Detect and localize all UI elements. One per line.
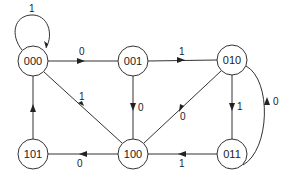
edge-label-001-100: 0 — [138, 102, 144, 113]
arrow-head-icon — [79, 151, 87, 157]
edge-label-100-101: 0 — [77, 158, 83, 169]
edge-label-011-010: 0 — [273, 96, 279, 107]
edge-label-100-000: 1 — [79, 91, 85, 102]
state-node-010: 010 — [217, 45, 247, 75]
edge-label-000-000: 1 — [29, 3, 35, 14]
svg-text:000: 000 — [24, 55, 42, 67]
edge-label-011-100: 1 — [179, 158, 185, 169]
edge-label-010-100: 0 — [180, 111, 186, 122]
svg-text:001: 001 — [124, 55, 142, 67]
edge-label-001-010: 1 — [179, 46, 185, 57]
edge-label-000-001: 0 — [79, 46, 85, 57]
arrow-head-icon — [229, 103, 235, 111]
arrow-head-icon — [44, 41, 48, 48]
state-node-100: 100 — [118, 139, 148, 169]
svg-text:010: 010 — [223, 54, 241, 66]
edge-100-000 — [44, 72, 122, 143]
arrow-head-icon — [178, 151, 186, 157]
arrow-head-icon — [77, 58, 85, 64]
edge-label-010-011: 1 — [237, 101, 243, 112]
arrow-head-icon — [264, 97, 270, 105]
arrow-head-icon — [130, 103, 136, 111]
svg-text:101: 101 — [24, 148, 42, 160]
state-node-000: 000 — [18, 46, 48, 76]
arrow-head-icon — [30, 104, 36, 112]
state-node-001: 001 — [118, 46, 148, 76]
state-diagram: 1 0 1 0 0 1 0 1 1 0 000 001 010 — [0, 0, 287, 179]
arrow-head-icon — [177, 57, 185, 63]
state-node-101: 101 — [18, 139, 48, 169]
state-node-011: 011 — [217, 139, 247, 169]
svg-text:100: 100 — [124, 148, 142, 160]
edge-000-000 — [15, 15, 49, 50]
svg-text:011: 011 — [223, 148, 241, 160]
